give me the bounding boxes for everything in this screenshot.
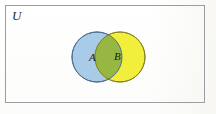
set-a-label: A (89, 52, 96, 63)
venn-diagram-figure: U A B (0, 0, 216, 114)
set-b-label: B (114, 51, 121, 62)
venn-circles-svg (0, 0, 216, 114)
